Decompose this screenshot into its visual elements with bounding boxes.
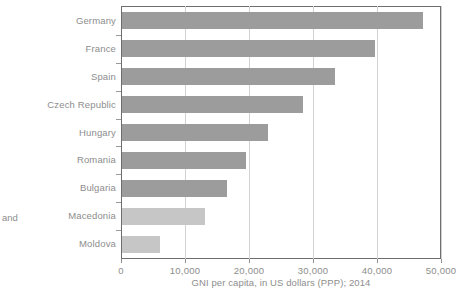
category-tick — [116, 119, 121, 120]
value-tick-label: 50,000 — [426, 265, 456, 276]
category-label: Bulgaria — [0, 182, 116, 193]
bar-row — [122, 91, 442, 119]
value-tick — [441, 259, 442, 263]
bar-row — [122, 174, 442, 202]
value-tick — [249, 259, 250, 263]
value-tick — [377, 259, 378, 263]
bar[interactable] — [122, 124, 268, 141]
bar-row — [122, 119, 442, 147]
bar-row — [122, 202, 442, 230]
value-tick — [185, 259, 186, 263]
bar-row — [122, 230, 442, 258]
side-note-text: and — [2, 212, 18, 223]
category-label: Germany — [0, 15, 116, 26]
bar-row — [122, 63, 442, 91]
value-tick-label: 0 — [118, 265, 123, 276]
category-tick — [116, 230, 121, 231]
value-tick-label: 40,000 — [362, 265, 392, 276]
bars-layer — [122, 7, 441, 258]
axis-title: GNI per capita, in US dollars (PPP); 201… — [121, 277, 441, 288]
value-tick — [313, 259, 314, 263]
bar[interactable] — [122, 180, 227, 197]
bar[interactable] — [122, 12, 423, 29]
bar[interactable] — [122, 96, 303, 113]
value-tick-label: 10,000 — [170, 265, 200, 276]
bar[interactable] — [122, 152, 246, 169]
value-tick — [121, 259, 122, 263]
category-tick — [116, 91, 121, 92]
category-label: Czech Republic — [0, 99, 116, 110]
bar[interactable] — [122, 40, 375, 57]
bar[interactable] — [122, 236, 160, 253]
bar-chart: GermanyFranceSpainCzech RepublicHungaryR… — [0, 0, 461, 295]
category-label: Spain — [0, 71, 116, 82]
bar[interactable] — [122, 68, 335, 85]
bar-row — [122, 7, 442, 35]
category-tick — [116, 202, 121, 203]
category-label: Moldova — [0, 238, 116, 249]
category-tick — [116, 174, 121, 175]
bar-row — [122, 146, 442, 174]
category-label: Romania — [0, 154, 116, 165]
value-tick-label: 20,000 — [234, 265, 264, 276]
category-label: Hungary — [0, 127, 116, 138]
category-label: France — [0, 43, 116, 54]
bar-row — [122, 35, 442, 63]
category-tick — [116, 35, 121, 36]
bar[interactable] — [122, 208, 205, 225]
category-tick — [116, 63, 121, 64]
category-tick — [116, 146, 121, 147]
value-tick-label: 30,000 — [298, 265, 328, 276]
